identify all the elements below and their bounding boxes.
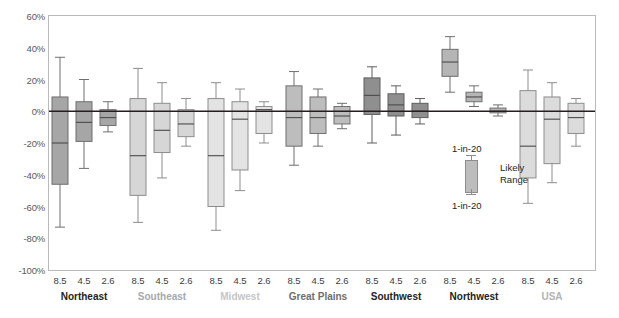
box-body <box>334 106 350 123</box>
x-axis-scenario-label: 4.5 <box>155 275 168 286</box>
legend-whisker-stem-upper <box>471 155 472 161</box>
x-axis-scenario-label: 8.5 <box>443 275 456 286</box>
box-body <box>286 86 302 146</box>
boxplot-box <box>286 72 302 166</box>
box-body <box>76 102 92 142</box>
boxplot-box <box>130 68 146 222</box>
x-axis-scenario-label: 8.5 <box>53 275 66 286</box>
x-axis-group-label: Northeast <box>61 291 108 302</box>
x-axis-scenario-label: 2.6 <box>413 275 426 286</box>
x-axis-scenario-label: 2.6 <box>101 275 114 286</box>
legend-lower-bound-label: 1-in-20 <box>452 200 482 211</box>
boxplot-box <box>154 83 170 178</box>
x-axis-scenario-label: 8.5 <box>521 275 534 286</box>
boxplot-box <box>334 103 350 128</box>
x-axis-scenario-label: 4.5 <box>389 275 402 286</box>
boxplot-box <box>310 89 326 146</box>
boxplot-box <box>52 57 68 227</box>
x-axis-scenario-label: 4.5 <box>233 275 246 286</box>
boxplot-box <box>544 83 560 183</box>
boxplot-box <box>232 89 248 191</box>
x-axis-scenario-label: 8.5 <box>209 275 222 286</box>
x-axis-group-label: USA <box>541 291 562 302</box>
legend-upper-bound-label: 1-in-20 <box>452 143 482 154</box>
x-axis-scenario-label: 2.6 <box>569 275 582 286</box>
box-body <box>208 99 224 207</box>
legend-box-swatch <box>465 160 478 193</box>
x-axis-scenario-label: 4.5 <box>77 275 90 286</box>
boxplot-box <box>100 102 116 132</box>
legend-whisker-stem-lower <box>471 189 472 195</box>
box-body <box>310 97 326 134</box>
boxplot-box <box>364 67 380 143</box>
x-axis-scenario-label: 2.6 <box>335 275 348 286</box>
box-body <box>544 97 560 164</box>
boxplot-series-layer <box>0 0 619 318</box>
boxplot-box <box>442 37 458 93</box>
legend-likely-label: Likely <box>500 162 524 173</box>
x-axis-scenario-label: 2.6 <box>179 275 192 286</box>
x-axis-scenario-label: 4.5 <box>467 275 480 286</box>
x-axis-group-label: Midwest <box>220 291 259 302</box>
x-axis-scenario-label: 8.5 <box>287 275 300 286</box>
boxplot-box <box>568 99 584 147</box>
x-axis-scenario-label: 2.6 <box>257 275 270 286</box>
boxplot-box <box>466 86 482 107</box>
boxplot-box <box>76 80 92 169</box>
boxplot-box <box>178 99 194 147</box>
legend-range-label: Range <box>500 174 528 185</box>
box-body <box>568 103 584 133</box>
boxplot-box <box>256 102 272 143</box>
box-body <box>442 49 458 76</box>
x-axis-group-label: Great Plains <box>289 291 347 302</box>
x-axis-scenario-label: 8.5 <box>365 275 378 286</box>
x-axis-scenario-label: 4.5 <box>545 275 558 286</box>
box-body <box>52 97 68 184</box>
box-body <box>178 110 194 137</box>
x-axis-group-label: Southwest <box>371 291 422 302</box>
boxplot-box <box>208 83 224 231</box>
box-body <box>130 99 146 196</box>
x-axis-scenario-label: 8.5 <box>131 275 144 286</box>
x-axis-scenario-label: 2.6 <box>491 275 504 286</box>
x-axis-group-label: Southeast <box>138 291 186 302</box>
x-axis-scenario-label: 4.5 <box>311 275 324 286</box>
box-body <box>364 78 380 115</box>
x-axis-group-label: Northwest <box>450 291 499 302</box>
chart-root: 60%40%20%0%-20%-40%-60%-80%-100% 8.54.52… <box>0 0 619 318</box>
